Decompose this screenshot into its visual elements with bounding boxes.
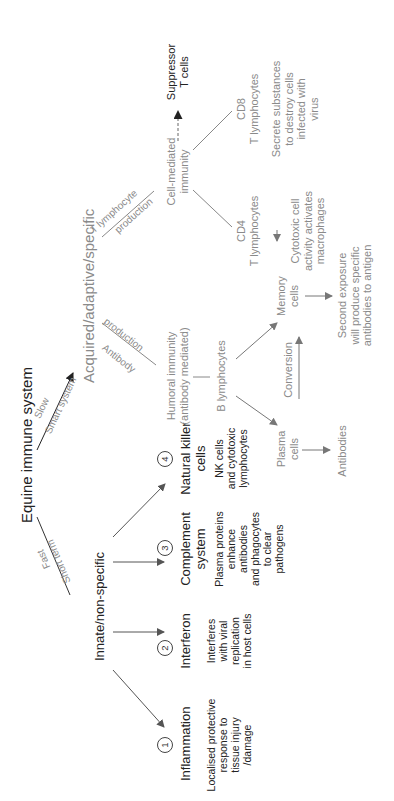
- item-number-3: 3: [157, 540, 173, 556]
- interferon-title: Interferon: [179, 606, 194, 676]
- immune-system-diagram: Equine immune system Fast Short term Slo…: [0, 0, 394, 801]
- complement-title: Complement system: [179, 509, 209, 589]
- cd8-description: Secrete substances to destroy cells infe…: [270, 57, 321, 161]
- inflammation-desc: Localised protective response to tissue …: [205, 695, 253, 795]
- humoral-immunity: Humoral immunity (antibody mediated): [165, 321, 190, 431]
- complement-desc: Plasma proteins enhance antibodies and p…: [213, 502, 285, 596]
- plasma-cells: Plasma cells: [275, 427, 300, 471]
- cd4-description: Cytotoxic cell activity activates macrop…: [289, 181, 327, 281]
- inflammation-title: Inflammation: [179, 709, 194, 781]
- natural-killer-desc: NK cells and cytotoxic lymphocytes: [213, 416, 249, 501]
- acquired-label: Acquired/adaptive/specific: [80, 218, 97, 383]
- b-lymphocytes: B lymphocytes: [215, 336, 228, 416]
- conversion-label: Conversion: [282, 337, 295, 403]
- item-number-1: 1: [157, 737, 173, 753]
- item-number-2: 2: [157, 640, 173, 656]
- cd4-t-lymphocytes: CD4 T lymphocytes: [235, 191, 260, 271]
- suppressor-t-cells: Suppressor T cells: [165, 37, 190, 107]
- second-exposure: Second exposure will produce specific an…: [336, 238, 374, 353]
- innate-label: Innate/non-specific: [93, 556, 108, 661]
- item-number-4: 4: [157, 451, 173, 467]
- cell-mediated-immunity: Cell-mediated immunity: [165, 134, 190, 209]
- antibodies: Antibodies: [336, 416, 349, 486]
- cd8-t-lymphocytes: CD8 T lymphocytes: [235, 69, 260, 149]
- interferon-desc: Interferes with viral replication in hos…: [205, 601, 253, 681]
